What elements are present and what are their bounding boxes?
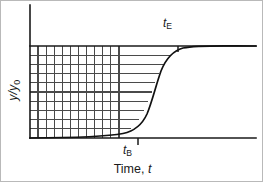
horizontal-gridlines [30, 55, 171, 129]
annotation-t-end-subscript: E [166, 21, 172, 31]
x-axis-label-main: Time, [114, 162, 148, 176]
y-axis-label-text: y/y0 [7, 59, 20, 121]
y-axis-label: y/y0 [1, 59, 27, 125]
y-axis-label-subscript: 0 [11, 80, 21, 85]
annotation-t-begin: tB [123, 144, 132, 156]
chart-figure: y/y0 Time, t tE tB [0, 0, 263, 182]
y-axis-label-main: y/y [6, 85, 20, 101]
annotation-t-end: tE [163, 17, 172, 29]
x-axis-label-var: t [148, 162, 151, 176]
annotation-t-begin-subscript: B [126, 148, 132, 158]
x-axis-label: Time, t [1, 163, 263, 176]
